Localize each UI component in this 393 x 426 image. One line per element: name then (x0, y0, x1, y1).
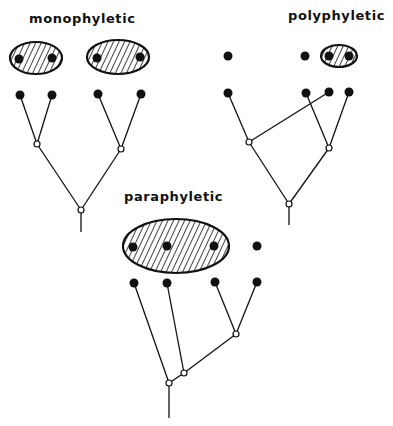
group-taxon (163, 242, 172, 251)
taxon (253, 242, 262, 251)
group-taxon (136, 53, 145, 62)
root-node (78, 207, 84, 213)
group-taxon (345, 52, 354, 61)
group-taxon (15, 55, 24, 64)
ancestor-node (34, 141, 40, 147)
paraphyletic-diagram: paraphyletic (123, 189, 262, 418)
root-node (286, 201, 292, 207)
taxon (94, 90, 103, 99)
root-node (166, 380, 172, 386)
phylogeny-diagrams: monophyletic polyphyletic (0, 0, 393, 426)
group-taxon (129, 243, 138, 252)
taxon (163, 279, 172, 288)
paraphyletic-label: paraphyletic (124, 189, 223, 204)
taxon (224, 89, 233, 98)
taxon (211, 278, 220, 287)
taxon (345, 88, 354, 97)
group-taxon (48, 54, 57, 63)
taxon (253, 278, 262, 287)
ancestor-node (181, 370, 187, 376)
group-taxon (93, 54, 102, 63)
taxon (325, 88, 334, 97)
taxon (224, 52, 233, 61)
monophyletic-label: monophyletic (29, 11, 136, 26)
taxon (16, 91, 25, 100)
taxon (48, 91, 57, 100)
group-taxon (210, 242, 219, 251)
taxon (130, 279, 139, 288)
group-taxon (325, 52, 334, 61)
taxon (302, 89, 311, 98)
ancestor-node (118, 146, 124, 152)
polyphyletic-diagram: polyphyletic (224, 8, 386, 225)
ancestor-node (246, 139, 252, 145)
ancestor-node (326, 145, 332, 151)
taxon (137, 90, 146, 99)
taxon (301, 52, 310, 61)
ancestor-node (233, 331, 239, 337)
polyphyletic-label: polyphyletic (288, 8, 385, 23)
